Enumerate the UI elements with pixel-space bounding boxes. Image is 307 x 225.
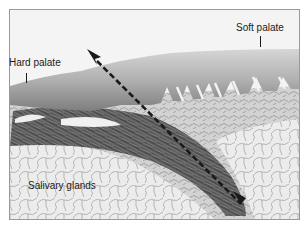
hard-palate-pointer [26,73,27,83]
salivary-glands-label: Salivary glands [28,181,96,191]
soft-palate-label: Soft palate [236,23,284,33]
soft-palate-pointer [260,36,261,47]
hard-palate-label: Hard palate [9,58,61,68]
